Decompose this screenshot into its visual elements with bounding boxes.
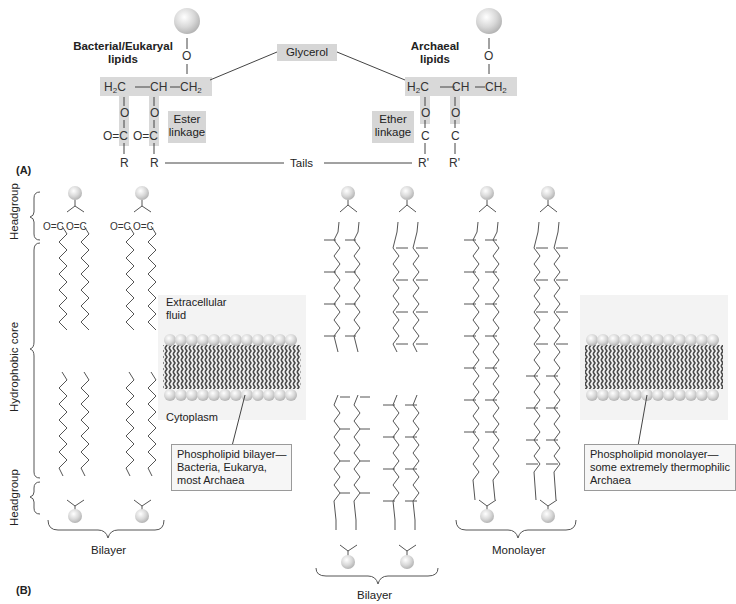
left-axis-braces [30, 192, 40, 514]
chem-o-archaeal-head: O [484, 50, 493, 63]
chem-h2c-archaeal: H2C [407, 81, 429, 97]
chem-r-1: R [120, 157, 129, 170]
chem-oc-bacterial-2: O=C [133, 130, 158, 143]
subscript: 2 [502, 86, 506, 95]
ester-line2: linkage [168, 126, 206, 139]
cytoplasm-label: Cytoplasm [166, 411, 218, 424]
chem-o-bacterial-1: O [120, 107, 129, 120]
subscript: 2 [416, 86, 420, 95]
chem-o-archaeal-1: O [421, 107, 430, 120]
monolayer-membrane-graphic [580, 295, 728, 446]
chem-r-2: R [150, 157, 159, 170]
chem-o-bacterial-head: O [182, 50, 191, 63]
glycerol-label: Glycerol [277, 44, 337, 61]
hydrophobic-core-axis-label: Hydrophobic core [8, 322, 20, 412]
bacterial-lipid-top [59, 186, 156, 330]
chem-c-archaeal-2: C [451, 130, 460, 143]
chem-h2c-bacterial: H2C [104, 81, 126, 97]
bacterial-title-line2: lipids [68, 53, 178, 66]
archaeal-lipids-title: Archaeal lipids [405, 40, 465, 66]
chem-r-prime-2: R' [449, 157, 460, 170]
extracellular-fluid-label: Extracellular fluid [166, 296, 227, 322]
archaeal-title-line2: lipids [405, 53, 465, 66]
chem-ch2-bacterial: CH2 [180, 81, 202, 97]
chem-r-prime-1: R' [418, 157, 429, 170]
panel-a-label: (A) [16, 164, 31, 177]
archaeal-monolayer [464, 186, 568, 523]
ch2-text: CH [485, 80, 502, 94]
extracellular-line1: Extracellular [166, 296, 227, 309]
ether-line1: Ether [372, 113, 414, 126]
chem-c-archaeal-1: C [421, 130, 430, 143]
chem-oc-bacterial-1: O=C [103, 130, 128, 143]
subscript: 2 [113, 86, 117, 95]
carbonyl-top-1: O=C [43, 220, 64, 233]
bilayer-callout-line1: Phospholipid bilayer— [177, 448, 286, 461]
archaeal-title-line1: Archaeal [405, 40, 465, 53]
tails-label: Tails [290, 157, 313, 170]
bilayer-callout: Phospholipid bilayer— Bacteria, Eukarya,… [171, 444, 292, 491]
bacterial-title-line1: Bacterial/Eukaryal [68, 40, 178, 53]
ester-line1: Ester [168, 113, 206, 126]
ether-line2: linkage [372, 126, 414, 139]
monolayer-brace [456, 520, 576, 538]
bilayer-callout-line3: most Archaea [177, 474, 286, 487]
bilayer-callout-line2: Bacteria, Eukarya, [177, 461, 286, 474]
extracellular-line2: fluid [166, 309, 227, 322]
monolayer-label: Monolayer [492, 544, 546, 557]
bilayer-middle-brace [316, 568, 438, 584]
chem-ch-bacterial: CH [150, 81, 167, 94]
monolayer-callout-line2: some extremely thermophilic [590, 461, 730, 474]
carbonyl-top-4: O=C [133, 220, 154, 233]
bacterial-lipids-title: Bacterial/Eukaryal lipids [68, 40, 178, 66]
carbonyl-top-3: O=C [110, 220, 131, 233]
ester-linkage-label: Ester linkage [168, 111, 206, 143]
chem-ch-archaeal: CH [452, 81, 469, 94]
carbonyl-top-2: O=C [66, 220, 87, 233]
headgroup-top-axis-label: Headgroup [8, 183, 20, 240]
bilayer-left-brace [48, 520, 164, 538]
ch2-text: CH [180, 80, 197, 94]
monolayer-callout: Phospholipid monolayer— some extremely t… [584, 444, 736, 491]
bilayer-middle-label: Bilayer [357, 589, 392, 602]
ether-linkage-label: Ether linkage [372, 111, 414, 143]
bacterial-lipid-bottom [59, 372, 156, 523]
archaeal-bilayer-bottom [334, 395, 419, 569]
panel-b-label: (B) [16, 584, 31, 597]
chem-ch2-archaeal: CH2 [485, 81, 507, 97]
chem-o-bacterial-2: O [150, 107, 159, 120]
headgroup-bottom-axis-label: Headgroup [8, 469, 20, 526]
archaeal-bilayer-top [324, 186, 428, 352]
monolayer-callout-line1: Phospholipid monolayer— [590, 448, 730, 461]
subscript: 2 [197, 86, 201, 95]
bilayer-left-label: Bilayer [91, 544, 126, 557]
monolayer-callout-line3: Archaea [590, 474, 730, 487]
chem-o-archaeal-2: O [451, 107, 460, 120]
